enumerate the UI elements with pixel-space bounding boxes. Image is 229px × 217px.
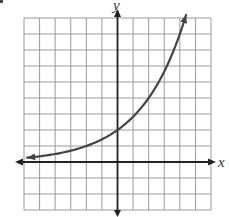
- coordinate-plane: [0, 0, 229, 217]
- y-axis-label: y: [113, 0, 120, 13]
- curve-arrowheads: [27, 15, 187, 160]
- exponential-curve: [27, 15, 186, 158]
- x-axis-label: x: [218, 155, 225, 170]
- axes: [15, 9, 216, 217]
